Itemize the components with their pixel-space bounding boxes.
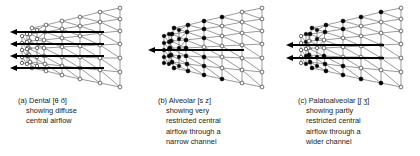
panel-alveolar: (b) Alveolar [s z] showing very restrict…: [140, 0, 280, 156]
caption-dental: (a) Dental [θ ð] showing diffuse central…: [0, 96, 140, 127]
caption-line: showing diffuse: [0, 106, 140, 116]
caption-line: showing very: [140, 106, 280, 116]
mesh-nodes-open: [299, 6, 403, 89]
panel-dental: (a) Dental [θ ð] showing diffuse central…: [0, 0, 140, 156]
caption-line: central airflow: [0, 116, 140, 126]
caption-line: (a) Dental [θ ð]: [0, 96, 140, 106]
mesh-nodes-filled: [162, 15, 224, 81]
caption-line: restricted central: [280, 116, 420, 126]
caption-line: (c) Palatoalveolar [ʃ ʒ]: [280, 96, 420, 106]
palatoalveolar-mesh-diagram: [280, 0, 420, 95]
dental-mesh-diagram: [0, 0, 140, 95]
airflow-arrows: [148, 47, 244, 53]
figure-container: (a) Dental [θ ð] showing diffuse central…: [0, 0, 420, 156]
caption-alveolar: (b) Alveolar [s z] showing very restrict…: [140, 96, 280, 147]
caption-line: showing partly: [280, 106, 420, 116]
panel-palatoalveolar: (c) Palatoalveolar [ʃ ʒ] showing partly …: [280, 0, 420, 156]
mesh-nodes-open: [20, 6, 122, 89]
caption-palatoalveolar: (c) Palatoalveolar [ʃ ʒ] showing partly …: [280, 96, 420, 147]
caption-line: narrow channel: [140, 137, 280, 147]
caption-line: restricted central: [140, 116, 280, 126]
alveolar-mesh-diagram: [140, 0, 280, 95]
caption-line: (b) Alveolar [s z]: [140, 96, 280, 106]
caption-line: wider channel: [280, 137, 420, 147]
caption-line: airflow through a: [140, 127, 280, 137]
caption-line: airflow through a: [280, 127, 420, 137]
